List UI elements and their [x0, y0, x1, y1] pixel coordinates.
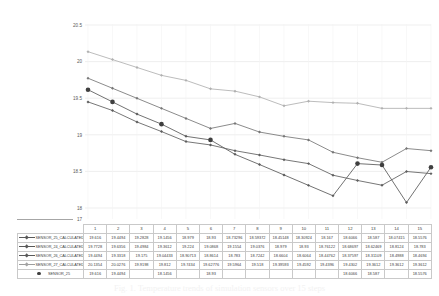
chart-svg: 20.52019.51918.51817	[0, 4, 439, 228]
table-cell: 19.62776	[199, 260, 222, 269]
series-marker	[332, 101, 335, 104]
legend-series-name: SENSOR_25	[48, 272, 70, 276]
legend-row-label-cell: SENSOR_27_CALCULATED	[18, 260, 84, 269]
y-axis-tick-label: 20.5	[73, 23, 82, 28]
left-divider-rule	[17, 219, 73, 220]
data-table: 123456789101112131415 SENSOR_25_CALCULAT…	[17, 224, 432, 279]
series-highlight-marker	[110, 100, 115, 105]
table-row: SENSOR_26_CALCULATED19.449419.331819.175…	[18, 251, 432, 260]
legend-marker-glyph	[24, 244, 29, 249]
table-cell: 19.812	[153, 260, 176, 269]
table-cell: 19.616	[84, 233, 107, 242]
table-cell: 18.8614	[199, 251, 222, 260]
table-cell: 19.4984	[130, 242, 153, 251]
table-cell: 19.2828	[130, 233, 153, 242]
series-marker	[234, 122, 237, 125]
series-marker	[356, 179, 359, 182]
table-cell: 18.76122	[315, 242, 338, 251]
y-axis-tick-label: 18	[77, 206, 83, 211]
table-cell: 18.93	[199, 233, 222, 242]
table-column-header: 5	[176, 225, 199, 234]
y-axis-tick-label: 19	[77, 133, 83, 138]
table-cell	[292, 269, 315, 278]
table-cell: 18.6066	[339, 269, 362, 278]
legend-row-label-cell: SENSOR_25	[18, 269, 84, 278]
series-marker	[405, 107, 408, 110]
series-marker	[258, 131, 261, 134]
table-column-header: 12	[339, 225, 362, 234]
table-cell: 19.3612	[385, 260, 408, 269]
table-cell: 19.0868	[199, 242, 222, 251]
table-cell: 19.1456	[153, 233, 176, 242]
series-marker	[283, 104, 286, 107]
table-cell: 19.7728	[84, 242, 107, 251]
table-cell: 19.4592	[292, 260, 315, 269]
legend-dot-icon	[31, 271, 47, 277]
series-marker	[111, 109, 114, 112]
table-cell	[269, 269, 292, 278]
table-cell: 18.68697	[339, 242, 362, 251]
table-column-header: 7	[223, 225, 246, 234]
legend-line-marker-icon	[19, 262, 35, 268]
table-column-header: 9	[269, 225, 292, 234]
table-cell: 18.4694	[408, 251, 431, 260]
series-highlight-marker	[355, 161, 360, 166]
table-row: SENSOR_27_CALCULATED20.135420.027619.919…	[18, 260, 432, 269]
table-column-header: 11	[315, 225, 338, 234]
table-cell: 18.37597	[339, 251, 362, 260]
table-cell: 19.0376	[246, 242, 269, 251]
table-column-header: 2	[107, 225, 130, 234]
table-cell: 18.45148	[269, 233, 292, 242]
table-cell: 19.1554	[223, 242, 246, 251]
table-cell: 18.6064	[292, 251, 315, 260]
table-cell: 18.07415	[385, 233, 408, 242]
table-cell: 18.93	[199, 269, 222, 278]
series-marker	[430, 107, 433, 110]
table-cell: 19.4302	[339, 260, 362, 269]
table-cell	[315, 269, 338, 278]
series-marker	[258, 154, 261, 157]
series-marker	[283, 158, 286, 161]
table-cell: 18.783	[223, 251, 246, 260]
series-marker	[209, 143, 212, 146]
table-cell	[176, 269, 199, 278]
table-column-header: 4	[153, 225, 176, 234]
table-cell: 18.59372	[246, 233, 269, 242]
table-row: SENSOR_2519.61619.449418.145618.9318.606…	[18, 269, 432, 278]
table-cell: 18.6604	[269, 251, 292, 260]
series-marker	[332, 151, 335, 154]
table-cell: 18.167	[315, 233, 338, 242]
table-cell: 19.4494	[107, 233, 130, 242]
series-marker	[381, 107, 384, 110]
table-cell: 18.8124	[385, 242, 408, 251]
series-marker	[430, 172, 433, 175]
table-cell: 19.9198	[130, 260, 153, 269]
table-cell: 19.39593	[269, 260, 292, 269]
series-marker	[209, 87, 212, 90]
series-marker	[160, 107, 163, 110]
table-cell: 18.1456	[153, 269, 176, 278]
series-highlight-marker	[380, 163, 385, 168]
series-marker	[185, 79, 188, 82]
table-cell	[246, 269, 269, 278]
table-cell: 18.4988	[385, 251, 408, 260]
table-cell: 18.979	[269, 242, 292, 251]
legend-series-name: SENSOR_26_CALCULATED	[36, 254, 84, 258]
table-cell: 18.62469	[362, 242, 385, 251]
legend-line-marker-icon	[19, 253, 35, 259]
series-marker	[430, 149, 433, 152]
series-marker	[332, 174, 335, 177]
table-cell: 18.31109	[362, 251, 385, 260]
series-marker	[136, 97, 139, 100]
series-marker	[185, 140, 188, 143]
series-highlight-marker	[429, 165, 434, 170]
series-marker	[258, 163, 261, 166]
series-highlight-marker	[159, 122, 164, 127]
table-column-header: 1	[84, 225, 107, 234]
table-cell: 19.3612	[362, 260, 385, 269]
data-table-wrapper: 123456789101112131415 SENSOR_25_CALCULAT…	[17, 224, 431, 279]
table-cell: 18.30924	[292, 233, 315, 242]
legend-line-marker-icon	[19, 244, 35, 250]
table-cell: 19.4494	[107, 269, 130, 278]
table-cell: 19.4396	[315, 260, 338, 269]
